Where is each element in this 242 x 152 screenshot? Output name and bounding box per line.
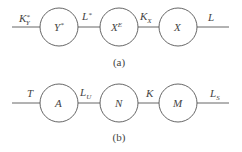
caption-b: (b) xyxy=(113,131,126,144)
edge-label: LU xyxy=(79,86,92,101)
edge-label: LS xyxy=(209,87,220,102)
diagram-a: Y* XE X K*Y L* KX L (a) xyxy=(12,8,229,69)
edge-label: L xyxy=(207,11,214,23)
caption-a: (a) xyxy=(113,56,126,69)
edge-label: KX xyxy=(139,10,152,25)
edge-label: T xyxy=(27,87,34,99)
diagram-canvas: Y* XE X K*Y L* KX L (a) A N M T LU K LS … xyxy=(0,0,242,152)
diagram-b: A N M T LU K LS (b) xyxy=(12,84,229,144)
node-label: A xyxy=(54,97,62,109)
edge-label: K*Y xyxy=(18,12,31,27)
node-label: M xyxy=(172,97,183,109)
node-label: N xyxy=(114,97,123,109)
edge-label: L* xyxy=(81,10,92,22)
node-label: X xyxy=(173,21,182,33)
edge-label: K xyxy=(145,87,154,99)
